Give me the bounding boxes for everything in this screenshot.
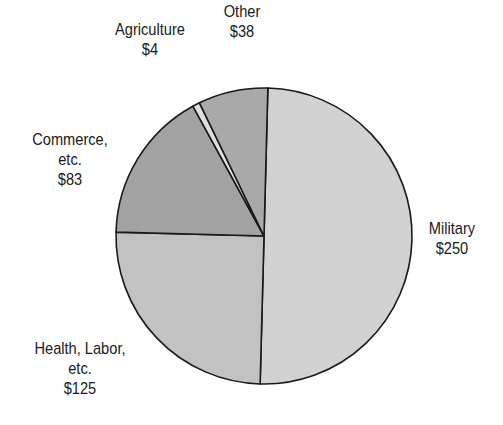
pie-slice-health-labor-etc bbox=[116, 232, 264, 384]
label-agriculture: Agriculture $4 bbox=[103, 20, 198, 60]
label-agriculture-name: Agriculture bbox=[103, 20, 198, 40]
label-commerce-name-2: etc. bbox=[23, 150, 118, 170]
label-health: Health, Labor, etc. $125 bbox=[24, 339, 136, 399]
label-other-name: Other bbox=[216, 2, 268, 22]
label-commerce: Commerce, etc. $83 bbox=[23, 130, 118, 190]
label-other: Other $38 bbox=[216, 2, 268, 42]
label-health-value: $125 bbox=[24, 379, 136, 399]
label-military-name: Military bbox=[418, 219, 487, 239]
label-health-name-2: etc. bbox=[24, 359, 136, 379]
pie-slice-military bbox=[260, 88, 412, 384]
label-other-value: $38 bbox=[216, 22, 268, 42]
label-agriculture-value: $4 bbox=[103, 40, 198, 60]
label-commerce-name: Commerce, bbox=[23, 130, 118, 150]
label-military-value: $250 bbox=[418, 239, 487, 259]
label-military: Military $250 bbox=[418, 219, 487, 259]
label-commerce-value: $83 bbox=[23, 170, 118, 190]
label-health-name: Health, Labor, bbox=[24, 339, 136, 359]
